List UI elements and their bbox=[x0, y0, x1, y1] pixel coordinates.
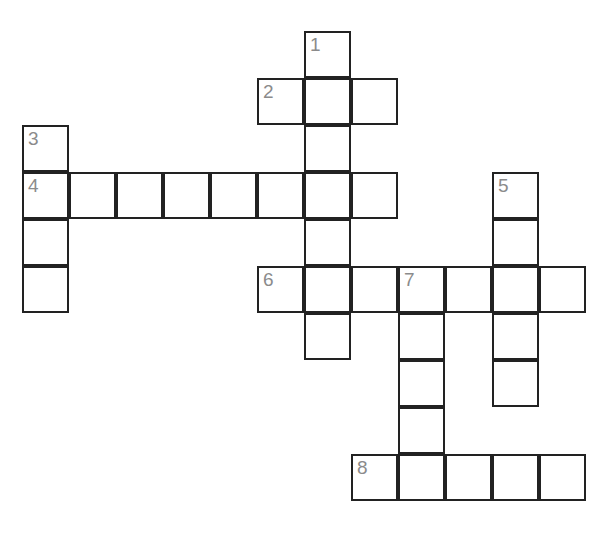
crossword-puzzle-canvas: 12345678 bbox=[0, 0, 611, 541]
crossword-cell[interactable]: 7 bbox=[398, 266, 445, 313]
crossword-cell[interactable] bbox=[398, 454, 445, 501]
crossword-cell[interactable] bbox=[492, 313, 539, 360]
crossword-cell[interactable]: 8 bbox=[351, 454, 398, 501]
crossword-cell[interactable] bbox=[492, 454, 539, 501]
crossword-cell[interactable] bbox=[492, 266, 539, 313]
crossword-cell[interactable]: 3 bbox=[22, 125, 69, 172]
crossword-cell[interactable] bbox=[257, 172, 304, 219]
clue-number-1: 1 bbox=[310, 34, 321, 56]
crossword-cell[interactable]: 4 bbox=[22, 172, 69, 219]
crossword-cell[interactable] bbox=[445, 266, 492, 313]
crossword-cell[interactable]: 5 bbox=[492, 172, 539, 219]
crossword-cell[interactable] bbox=[398, 407, 445, 454]
crossword-cell[interactable] bbox=[163, 172, 210, 219]
crossword-cell[interactable] bbox=[210, 172, 257, 219]
crossword-cell[interactable] bbox=[398, 313, 445, 360]
crossword-cell[interactable] bbox=[492, 219, 539, 266]
crossword-cell[interactable] bbox=[22, 219, 69, 266]
crossword-cell[interactable] bbox=[304, 125, 351, 172]
crossword-cell[interactable] bbox=[539, 454, 586, 501]
clue-number-2: 2 bbox=[263, 81, 274, 103]
crossword-cell[interactable] bbox=[22, 266, 69, 313]
crossword-cell[interactable] bbox=[351, 266, 398, 313]
crossword-cell[interactable]: 1 bbox=[304, 31, 351, 78]
crossword-cell[interactable] bbox=[351, 78, 398, 125]
crossword-cell[interactable] bbox=[539, 266, 586, 313]
crossword-grid: 12345678 bbox=[0, 0, 611, 541]
crossword-cell[interactable] bbox=[304, 313, 351, 360]
clue-number-8: 8 bbox=[357, 457, 368, 479]
clue-number-7: 7 bbox=[404, 269, 415, 291]
crossword-cell[interactable] bbox=[304, 266, 351, 313]
crossword-cell[interactable] bbox=[116, 172, 163, 219]
crossword-cell[interactable] bbox=[445, 454, 492, 501]
crossword-cell[interactable] bbox=[304, 172, 351, 219]
crossword-cell[interactable]: 2 bbox=[257, 78, 304, 125]
crossword-cell[interactable] bbox=[304, 219, 351, 266]
crossword-cell[interactable] bbox=[69, 172, 116, 219]
crossword-cell[interactable] bbox=[492, 360, 539, 407]
crossword-cell[interactable] bbox=[398, 360, 445, 407]
clue-number-6: 6 bbox=[263, 269, 274, 291]
crossword-cell[interactable] bbox=[304, 78, 351, 125]
clue-number-4: 4 bbox=[28, 175, 39, 197]
clue-number-5: 5 bbox=[498, 175, 509, 197]
clue-number-3: 3 bbox=[28, 128, 39, 150]
crossword-cell[interactable] bbox=[351, 172, 398, 219]
crossword-cell[interactable]: 6 bbox=[257, 266, 304, 313]
